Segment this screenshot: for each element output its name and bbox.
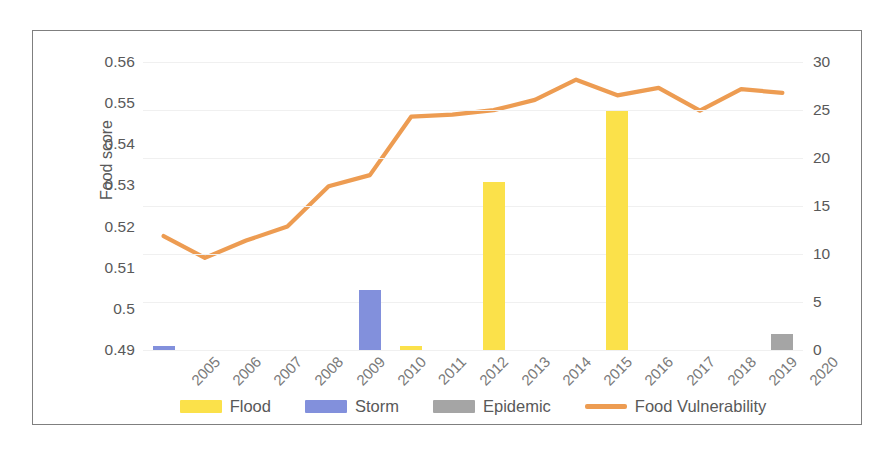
gridline [143, 110, 803, 111]
x-axis-tick: 2012 [476, 353, 512, 389]
legend-item-flood[interactable]: Flood [180, 397, 271, 416]
gridline [143, 158, 803, 159]
y-axis-right-tick: 10 [813, 245, 830, 263]
y-axis-left-tick: 0.49 [104, 341, 135, 359]
y-axis-left-tick: 0.51 [104, 259, 135, 277]
x-axis-tick: 2017 [682, 353, 718, 389]
x-axis-tick: 2018 [724, 353, 760, 389]
plot-area [143, 62, 803, 350]
x-axis-tick: 2010 [394, 353, 430, 389]
bar-storm-2005[interactable] [153, 346, 175, 350]
bar-epidemic-2020[interactable] [771, 334, 793, 350]
x-axis-tick: 2013 [517, 353, 553, 389]
bar-flood-2013[interactable] [483, 182, 505, 350]
y-axis-left-tick: 0.54 [104, 135, 135, 153]
x-axis-tick: 2014 [559, 353, 595, 389]
legend-item-food-vulnerability[interactable]: Food Vulnerability [585, 397, 766, 416]
x-axis-tick: 2008 [311, 353, 347, 389]
x-axis-tick: 2005 [187, 353, 223, 389]
legend-bar-icon [433, 400, 475, 413]
x-axis-tick: 2016 [641, 353, 677, 389]
y-axis-right-ticks: 051015202530 [807, 62, 851, 350]
bar-storm-2010[interactable] [359, 290, 381, 350]
line-food-vulnerability[interactable] [164, 80, 783, 258]
bar-flood-2011[interactable] [400, 346, 422, 350]
y-axis-right-tick: 30 [813, 53, 830, 71]
x-axis-tick: 2019 [765, 353, 801, 389]
y-axis-left-tick: 0.53 [104, 176, 135, 194]
gridline [143, 254, 803, 255]
gridline [143, 350, 803, 351]
chart-legend: FloodStormEpidemicFood Vulnerability [143, 391, 803, 421]
legend-label: Storm [355, 397, 399, 416]
gridline [143, 62, 803, 63]
y-axis-left-tick: 0.55 [104, 94, 135, 112]
x-axis-tick: 2007 [270, 353, 306, 389]
legend-bar-icon [305, 400, 347, 413]
legend-item-storm[interactable]: Storm [305, 397, 399, 416]
y-axis-left-tick: 0.56 [104, 53, 135, 71]
y-axis-left-tick: 0.52 [104, 218, 135, 236]
chart-frame: Food score # of people affected in thous… [32, 30, 862, 425]
y-axis-right-tick: 15 [813, 197, 830, 215]
legend-bar-icon [180, 400, 222, 413]
y-axis-right-tick: 5 [813, 293, 822, 311]
y-axis-left-tick: 0.5 [113, 300, 135, 318]
y-axis-right-tick: 25 [813, 101, 830, 119]
x-axis-tick: 2020 [806, 353, 842, 389]
legend-label: Epidemic [483, 397, 551, 416]
gridline [143, 302, 803, 303]
y-axis-left-ticks: 0.490.50.510.520.530.540.550.56 [69, 62, 139, 350]
y-axis-right-tick: 0 [813, 341, 822, 359]
chart-screenshot: Food score # of people affected in thous… [0, 0, 896, 449]
legend-label: Flood [230, 397, 271, 416]
x-axis-tick: 2011 [435, 353, 470, 388]
x-axis-tick: 2009 [352, 353, 388, 389]
y-axis-right-tick: 20 [813, 149, 830, 167]
legend-item-epidemic[interactable]: Epidemic [433, 397, 551, 416]
legend-line-icon [585, 404, 627, 409]
gridline [143, 206, 803, 207]
x-axis-tick: 2006 [229, 353, 265, 389]
bar-flood-2016[interactable] [606, 111, 628, 350]
x-axis-tick: 2015 [600, 353, 636, 389]
legend-label: Food Vulnerability [635, 397, 766, 416]
